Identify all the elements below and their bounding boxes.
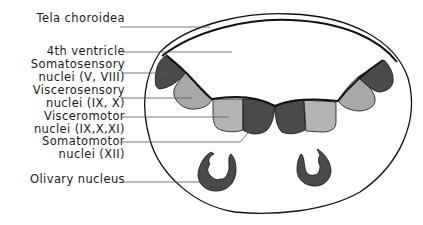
visceromotor-nucleus-right xyxy=(304,100,336,132)
visceromotor-nucleus-left xyxy=(213,99,243,132)
medulla-diagram xyxy=(0,0,423,225)
